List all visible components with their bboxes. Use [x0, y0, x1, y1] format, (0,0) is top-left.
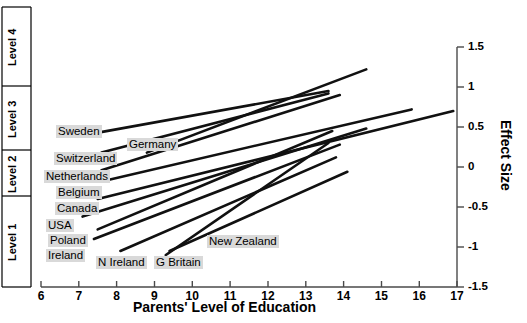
x-tick-label: 8 — [103, 289, 131, 303]
country-label: G Britain — [154, 256, 203, 269]
y-tick-label: -1 — [468, 240, 478, 252]
series-line — [83, 129, 367, 217]
level-axis-rules — [2, 7, 31, 287]
country-label: N Ireland — [96, 256, 147, 269]
country-label: Switzerland — [54, 152, 117, 165]
y-tick-label: -0.5 — [468, 200, 488, 212]
y-axis — [457, 47, 464, 287]
country-label: Sweden — [56, 125, 102, 138]
country-label: New Zealand — [207, 235, 279, 248]
x-axis — [41, 281, 457, 287]
y-tick-label: 0.5 — [468, 120, 484, 132]
y-axis-title: Effect Size — [498, 120, 514, 191]
y-tick-label: 0 — [468, 160, 474, 172]
country-label: Ireland — [46, 249, 85, 262]
x-tick-label: 15 — [367, 289, 395, 303]
y-tick-label: 1 — [468, 80, 474, 92]
country-label: Canada — [55, 202, 99, 215]
country-label: Netherlands — [44, 170, 110, 183]
x-tick-label: 14 — [330, 289, 358, 303]
x-tick-label: 16 — [405, 289, 433, 303]
country-label: Germany — [127, 138, 178, 151]
y-tick-label: 1.5 — [468, 40, 484, 52]
country-label: Poland — [48, 234, 88, 247]
data-series-layer — [83, 69, 454, 255]
chart-figure: Level 4 Level 3 Level 2 Level 1 — [0, 0, 527, 323]
y-tick-label: -1.5 — [468, 280, 488, 292]
x-tick-label: 17 — [443, 289, 471, 303]
x-axis-title: Parents' Level of Education — [133, 299, 316, 315]
country-label: USA — [46, 219, 74, 232]
x-tick-label: 7 — [65, 289, 93, 303]
x-tick-label: 6 — [27, 289, 55, 303]
country-label: Belgium — [56, 186, 102, 199]
